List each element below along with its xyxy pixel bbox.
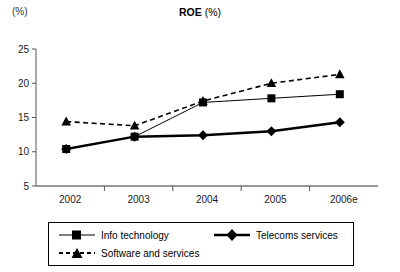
legend-swatch-triangle-dashed xyxy=(57,246,97,260)
legend-label-info-technology: Info technology xyxy=(97,230,169,241)
legend-item-info-technology: Info technology xyxy=(57,227,169,243)
legend-item-software-and-services: Software and services xyxy=(57,245,199,261)
data-point-marker xyxy=(266,126,276,136)
x-tick-label: 2005 xyxy=(264,194,287,205)
x-tick-label: 2006e xyxy=(330,194,358,205)
x-tick-label: 2004 xyxy=(196,194,219,205)
y-tick-label: 25 xyxy=(18,44,30,55)
y-tick-label: 5 xyxy=(23,181,29,192)
legend-swatch-square-solid xyxy=(57,228,97,242)
data-point-marker xyxy=(61,117,71,126)
x-tick-label: 2002 xyxy=(59,194,82,205)
roe-chart: (%) ROE (%) 510152025 200220032004200520… xyxy=(0,0,400,272)
chart-legend: Info technology Telecoms services Softwa… xyxy=(48,222,354,266)
legend-label-telecoms-services: Telecoms services xyxy=(252,230,338,241)
y-tick-label: 20 xyxy=(18,78,30,89)
x-axis: 20022003200420052006e xyxy=(36,186,378,205)
series-telecoms-services xyxy=(61,117,345,154)
legend-swatch-diamond-solid xyxy=(212,228,252,242)
series-software-and-services xyxy=(61,69,344,129)
data-point-marker xyxy=(267,94,275,102)
data-point-marker xyxy=(336,90,344,98)
y-axis: 510152025 xyxy=(18,44,36,192)
y-tick-label: 10 xyxy=(18,146,30,157)
data-point-marker xyxy=(335,69,345,78)
data-point-marker xyxy=(198,130,208,140)
data-series-group xyxy=(61,69,345,154)
y-tick-label: 15 xyxy=(18,112,30,123)
x-tick-label: 2003 xyxy=(127,194,150,205)
legend-label-software-and-services: Software and services xyxy=(97,248,199,259)
data-point-marker xyxy=(335,117,345,127)
legend-item-telecoms-services: Telecoms services xyxy=(212,227,338,243)
